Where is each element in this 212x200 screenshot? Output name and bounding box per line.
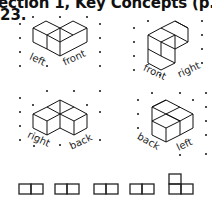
figure-3-label-back: back: [68, 131, 94, 151]
view-4: [130, 184, 154, 194]
figure-2-label-right: right: [176, 60, 202, 80]
isometric-figures: left front front right right back: [0, 0, 212, 200]
figure-4-drawing: [152, 100, 193, 142]
figure-1-label-left: left: [28, 51, 47, 68]
figure-2-label-front: front: [142, 62, 168, 82]
view-2: [55, 184, 79, 194]
figure-3-drawing: [33, 100, 87, 135]
view-5: [169, 174, 193, 194]
view-3: [94, 184, 118, 194]
figure-1-label-front: front: [61, 48, 87, 68]
figure-3-label-right: right: [26, 129, 52, 149]
figure-2-drawing: [148, 21, 188, 70]
orthographic-views: [19, 174, 193, 194]
figure-4-label-back: back: [136, 131, 162, 153]
view-1: [19, 184, 43, 194]
figure-4-label-left: left: [175, 136, 194, 153]
